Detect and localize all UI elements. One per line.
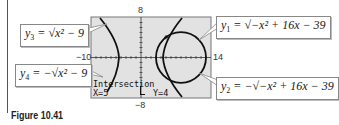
eq-y1-rhs: = √−x² + 16x − 39 — [230, 18, 325, 32]
eq-y4-rhs: = −√x² − 9 — [29, 66, 87, 80]
intersection-y-value: Y=4 — [153, 89, 168, 98]
eq-y3-rhs: = √x² − 9 — [34, 26, 84, 40]
equation-y3-label: y3 = √x² − 9 — [20, 24, 89, 47]
eq-y2-rhs: = −√−x² + 16x − 39 — [230, 79, 333, 93]
y-max-label: 8 — [138, 5, 143, 15]
figure-caption: Figure 10.41 — [11, 109, 63, 121]
cursor-marker — [140, 86, 145, 95]
equation-y2-label: y2 = −√−x² + 16x − 39 — [216, 77, 339, 100]
x-min-label: −10 — [76, 52, 91, 62]
y-min-label: −8 — [135, 100, 145, 110]
equation-y4-label: y4 = −√x² − 9 — [15, 64, 92, 87]
intersection-x-value: X=5 — [93, 89, 108, 98]
x-max-label: 14 — [213, 52, 223, 62]
equation-y1-label: y1 = √−x² + 16x − 39 — [216, 16, 331, 39]
